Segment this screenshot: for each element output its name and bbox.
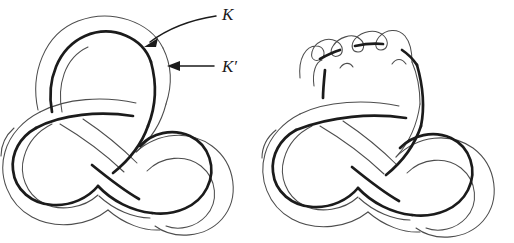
label-k-prime: K′ <box>221 57 237 76</box>
knot-figure: K K′ <box>0 0 514 243</box>
knot-diagram-svg: K K′ <box>0 0 514 243</box>
label-k: K <box>221 5 235 24</box>
